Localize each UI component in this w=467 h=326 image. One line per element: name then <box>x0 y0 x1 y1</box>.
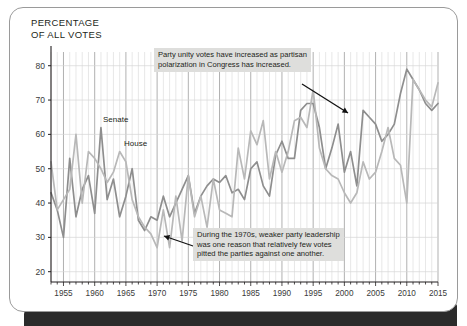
x-tick-label: 1955 <box>54 289 73 298</box>
arrow-top-callout <box>302 84 348 113</box>
x-tick-label: 1965 <box>117 289 136 298</box>
x-tick-label: 2010 <box>398 289 417 298</box>
x-tick-label: 1975 <box>179 289 198 298</box>
y-tick-label: 50 <box>36 164 46 174</box>
x-tick-label: 1980 <box>210 289 229 298</box>
y-tick-label: 30 <box>36 232 46 242</box>
annotation-top: Party unity votes have increased as part… <box>154 48 311 72</box>
callout-arrows <box>164 84 348 247</box>
page-title: PERCENTAGE OF ALL VOTES <box>31 17 102 40</box>
x-tick-label: 2015 <box>429 289 448 298</box>
y-axis-ticks: 20304050607080 <box>36 61 51 277</box>
y-tick-label: 60 <box>36 129 46 139</box>
series-label-senate: Senate <box>103 115 128 124</box>
x-tick-label: 1995 <box>304 289 323 298</box>
y-tick-label: 70 <box>36 95 46 105</box>
y-tick-label: 80 <box>36 61 46 71</box>
x-tick-label: 1970 <box>148 289 167 298</box>
y-tick-label: 20 <box>36 267 46 277</box>
x-tick-label: 2000 <box>335 289 354 298</box>
annotation-bottom: During the 1970s, weaker party leadershi… <box>193 228 344 261</box>
series-label-house: House <box>124 139 147 148</box>
x-tick-label: 1985 <box>242 289 261 298</box>
x-tick-label: 1990 <box>273 289 292 298</box>
x-axis-ticks: 1955196019651970197519801985199019952000… <box>51 282 448 298</box>
chart-screenshot: PERCENTAGE OF ALL VOTES 2030405060708019… <box>0 0 467 326</box>
x-tick-label: 2005 <box>366 289 385 298</box>
x-tick-label: 1960 <box>86 289 105 298</box>
y-tick-label: 40 <box>36 198 46 208</box>
